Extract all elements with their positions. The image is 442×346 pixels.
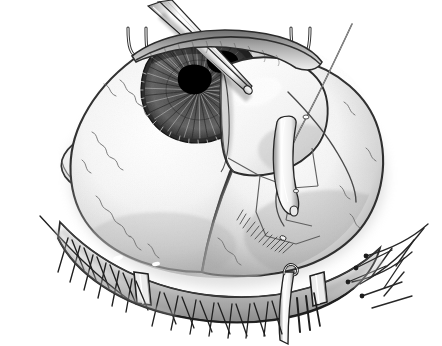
lid-retractor-right xyxy=(310,272,327,306)
suture-bite-upper xyxy=(303,115,309,119)
surgery-illustration: Black and white pen and ink medical illu… xyxy=(0,0,442,346)
needle-tip xyxy=(290,206,298,216)
figure-root: Surgical illustration of the human eye d… xyxy=(0,0,442,346)
